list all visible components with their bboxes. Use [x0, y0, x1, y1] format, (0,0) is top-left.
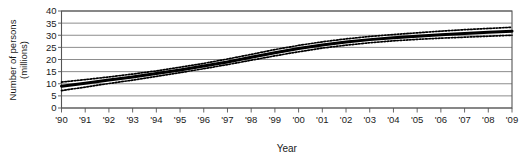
x-tick-marks — [62, 108, 513, 113]
svg-text:'09: '09 — [506, 114, 518, 125]
chart-container: Number of persons (millions) 05101520253… — [0, 0, 521, 156]
grid-lines — [62, 11, 513, 108]
series-lines — [62, 27, 513, 90]
svg-text:10: 10 — [46, 78, 57, 89]
svg-text:'06: '06 — [435, 114, 447, 125]
svg-text:'94: '94 — [150, 114, 162, 125]
svg-text:'92: '92 — [103, 114, 115, 125]
svg-text:25: 25 — [46, 42, 57, 53]
svg-text:'95: '95 — [174, 114, 186, 125]
svg-text:'08: '08 — [482, 114, 494, 125]
x-tick-labels: '90'91'92'93'94'95'96'97'98'99'00'01'02'… — [55, 114, 518, 125]
svg-text:0: 0 — [51, 102, 56, 113]
svg-text:'98: '98 — [245, 114, 257, 125]
svg-text:'00: '00 — [292, 114, 304, 125]
svg-text:40: 40 — [46, 5, 57, 16]
svg-text:'04: '04 — [387, 114, 399, 125]
svg-text:'01: '01 — [316, 114, 328, 125]
svg-text:'90: '90 — [55, 114, 67, 125]
svg-text:'03: '03 — [364, 114, 376, 125]
svg-text:30: 30 — [46, 30, 57, 41]
svg-text:'05: '05 — [411, 114, 423, 125]
svg-text:'93: '93 — [126, 114, 138, 125]
svg-text:'07: '07 — [458, 114, 470, 125]
svg-text:'02: '02 — [340, 114, 352, 125]
svg-text:5: 5 — [51, 90, 56, 101]
svg-text:'99: '99 — [269, 114, 281, 125]
y-tick-labels: 0510152025303540 — [46, 5, 62, 113]
svg-text:'97: '97 — [221, 114, 233, 125]
svg-text:15: 15 — [46, 66, 57, 77]
svg-text:35: 35 — [46, 18, 57, 29]
svg-text:'96: '96 — [198, 114, 210, 125]
svg-text:'91: '91 — [79, 114, 91, 125]
chart-plot: 0510152025303540 '90'91'92'93'94'95'96'9… — [0, 0, 521, 156]
svg-text:20: 20 — [46, 54, 57, 65]
x-axis-title: Year — [277, 143, 298, 154]
